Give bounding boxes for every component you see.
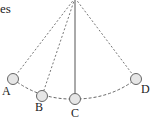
- label-c: C: [71, 106, 79, 118]
- bob-a: [8, 74, 19, 85]
- string-a: [13, 0, 75, 79]
- bob-d: [131, 74, 142, 85]
- pendulum-diagram: es A B C D: [0, 0, 152, 118]
- label-b: B: [35, 100, 43, 114]
- label-d: D: [141, 82, 150, 96]
- string-b: [42, 0, 75, 96]
- string-d: [75, 0, 136, 79]
- label-a: A: [2, 84, 11, 98]
- title-fragment: es: [0, 1, 11, 16]
- bob-c: [70, 94, 81, 105]
